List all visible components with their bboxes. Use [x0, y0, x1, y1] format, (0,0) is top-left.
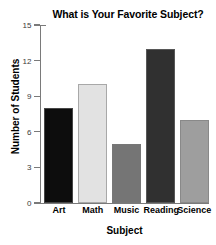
- x-axis-label-music: Music: [110, 205, 144, 216]
- x-axis-title: Subject: [40, 225, 209, 236]
- y-axis-tick-label: 15: [23, 20, 32, 29]
- bar-math: [78, 84, 107, 203]
- y-axis-title: Number of Students: [10, 37, 21, 177]
- x-axis-label-math: Math: [76, 205, 110, 216]
- chart-title: What is Your Favorite Subject?: [40, 8, 216, 20]
- bar-art: [44, 108, 73, 203]
- bar-science: [180, 120, 209, 203]
- bar-reading: [146, 49, 175, 203]
- y-axis-tick-label: 6: [27, 127, 31, 136]
- plot-area: [40, 25, 209, 203]
- x-axis-label-art: Art: [42, 205, 76, 216]
- bar-music: [112, 144, 141, 203]
- y-axis-tick-label: 3: [27, 163, 31, 172]
- y-axis-tick-label: 12: [23, 56, 32, 65]
- y-axis-tick-label: 0: [27, 198, 31, 207]
- x-axis-line: [40, 203, 209, 204]
- x-axis-label-science: Science: [177, 205, 211, 216]
- y-axis-tick-label: 9: [27, 92, 31, 101]
- x-axis-label-reading: Reading: [143, 205, 177, 216]
- bar-chart: What is Your Favorite Subject? 03691215 …: [0, 0, 216, 245]
